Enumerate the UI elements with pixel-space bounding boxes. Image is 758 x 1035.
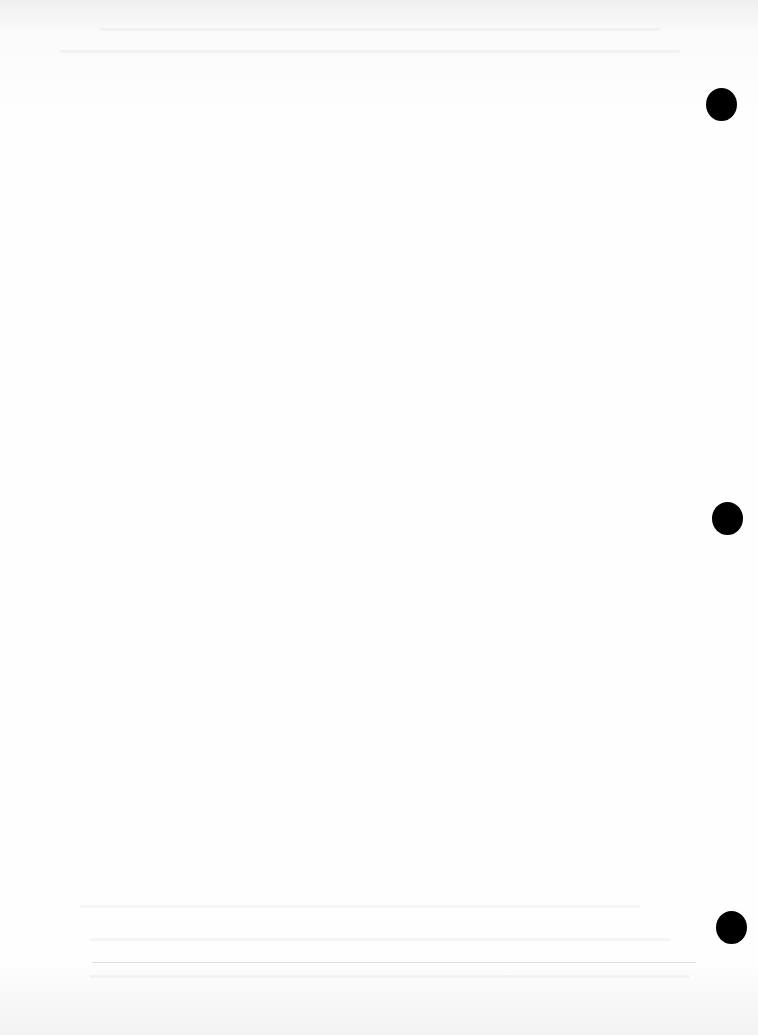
bleed-through-line: [90, 975, 690, 978]
bleed-through-line: [80, 905, 640, 908]
bleed-through-line: [60, 50, 680, 53]
punch-hole-top: [706, 88, 737, 121]
bleed-through-rule: [92, 962, 696, 963]
scanned-page: [0, 0, 758, 1035]
bleed-through-line: [100, 28, 660, 31]
punch-hole-middle: [712, 502, 743, 535]
punch-hole-bottom: [716, 911, 747, 944]
bleed-through-line: [90, 938, 670, 941]
